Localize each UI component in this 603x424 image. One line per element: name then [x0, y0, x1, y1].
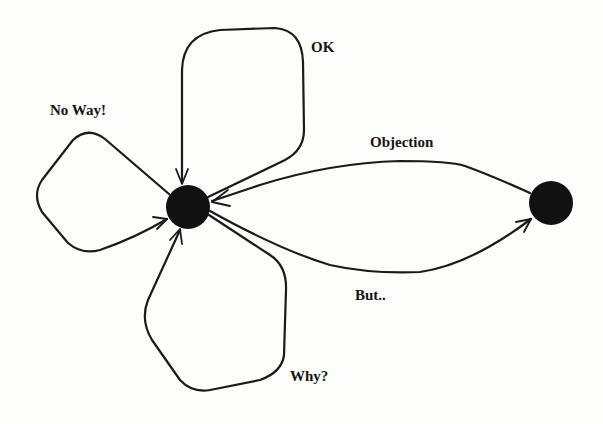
edge-why	[145, 215, 286, 391]
edge-label-objection: Objection	[370, 135, 433, 150]
edge-label-why: Why?	[290, 369, 328, 384]
edge-ok	[176, 28, 304, 198]
state-node-center	[166, 185, 210, 229]
edge-no-way	[37, 133, 169, 252]
edge-label-but: But..	[355, 288, 386, 303]
diagram-canvas	[0, 0, 603, 424]
edge-label-no-way: No Way!	[50, 103, 106, 118]
edge-objection	[212, 161, 530, 206]
edge-but	[210, 211, 531, 272]
state-diagram: OK No Way! Objection But.. Why?	[0, 0, 603, 424]
edge-label-ok: OK	[311, 40, 334, 55]
state-node-right	[529, 181, 573, 225]
